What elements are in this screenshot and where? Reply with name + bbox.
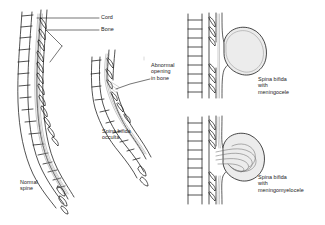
- panel-spina-bifida-occulta: [91, 50, 151, 186]
- caption-spina-bifida-occulta: Spina bifida occulta: [102, 128, 131, 141]
- panel-meningocele: [188, 13, 266, 98]
- callout-label-abnormal-opening: Abnormal opening in bone: [151, 62, 174, 81]
- caption-meningocele: Spina bifida with meningocele: [258, 76, 289, 95]
- caption-normal-spine: Normal spine: [20, 179, 38, 192]
- callout-label-bone: Bone: [101, 26, 114, 32]
- caption-meningomyelocele: Spina bifida with meningomyelocele: [258, 174, 304, 193]
- illustration-canvas: Cord Bone Abnormal opening in bone Spina…: [0, 0, 325, 225]
- callout-label-cord: Cord: [101, 14, 113, 20]
- panel-meningomyelocele: [188, 116, 264, 204]
